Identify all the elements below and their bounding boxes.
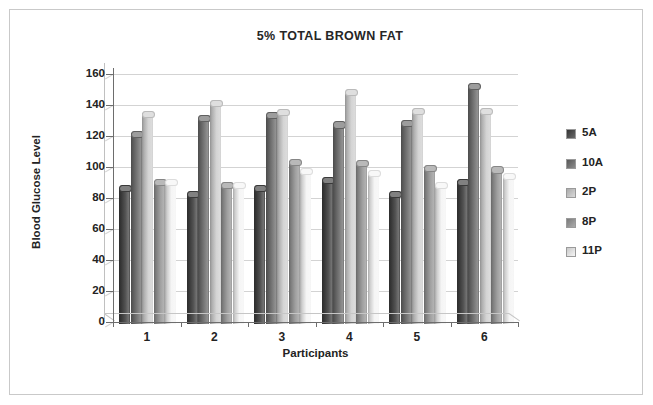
x-axis-tick [518, 322, 519, 327]
bar-body [412, 110, 423, 324]
y-axis-tick-label: 80 [45, 192, 105, 204]
bar-body [221, 185, 232, 325]
bar-cap [165, 179, 178, 186]
bar-cap [356, 160, 369, 167]
bar-2p-participant-5[interactable] [412, 110, 423, 324]
y-axis-tick-label: 160 [45, 68, 105, 80]
y-axis-tick-label: 40 [45, 254, 105, 266]
bar-2p-participant-2[interactable] [210, 102, 221, 324]
bar-body [254, 188, 265, 324]
bar-cap [424, 165, 437, 172]
bar-8p-participant-4[interactable] [356, 163, 367, 324]
bar-group [254, 74, 311, 326]
bar-5a-participant-4[interactable] [322, 180, 333, 324]
bar-body [233, 185, 244, 325]
bar-10a-participant-3[interactable] [266, 115, 277, 324]
bar-5a-participant-3[interactable] [254, 188, 265, 324]
bar-8p-participant-3[interactable] [289, 161, 300, 324]
y-axis-tick-label: 20 [45, 285, 105, 297]
legend-swatch [566, 218, 576, 228]
x-axis-tick-label: 6 [464, 330, 504, 344]
bar-body [142, 113, 153, 324]
x-axis-tick [451, 322, 452, 327]
bar-11p-participant-3[interactable] [300, 171, 311, 324]
bar-cap [142, 111, 155, 118]
bar-cap [503, 173, 516, 180]
x-axis-tick-label: 1 [127, 330, 167, 344]
bar-cap [233, 182, 246, 189]
bar-5a-participant-1[interactable] [119, 188, 130, 324]
x-axis-back-line [104, 313, 509, 314]
legend-label: 5A [582, 126, 597, 138]
bar-cap [289, 159, 302, 166]
x-axis-tick [248, 322, 249, 327]
bar-group [457, 74, 514, 326]
bar-10a-participant-5[interactable] [401, 123, 412, 325]
x-axis-tick [181, 322, 182, 327]
legend-label: 2P [582, 185, 596, 197]
y-axis-tick [106, 198, 113, 199]
y-axis-tick [106, 136, 113, 137]
x-axis-tick [383, 322, 384, 327]
bar-body [435, 185, 446, 325]
y-axis-tick-labels: 020406080100120140160 [35, 72, 105, 324]
legend-swatch [566, 159, 576, 169]
bar-8p-participant-6[interactable] [491, 169, 502, 324]
y-axis-tick [106, 260, 113, 261]
bar-2p-participant-1[interactable] [142, 113, 153, 324]
bar-body [187, 194, 198, 324]
bar-cap [345, 89, 358, 96]
y-axis-tick [106, 322, 113, 323]
bar-body [468, 85, 479, 324]
bar-cap [491, 166, 504, 173]
bar-cap [210, 100, 223, 107]
bar-10a-participant-6[interactable] [468, 85, 479, 324]
bar-body [266, 115, 277, 324]
x-axis-tick-label: 4 [329, 330, 369, 344]
bar-11p-participant-6[interactable] [503, 175, 514, 324]
bar-body [322, 180, 333, 324]
bar-body [333, 124, 344, 324]
y-axis-tick-label: 0 [45, 316, 105, 328]
bar-8p-participant-1[interactable] [154, 181, 165, 324]
y-axis-tick [106, 74, 113, 75]
bar-cap [480, 108, 493, 115]
x-axis-tick-label: 3 [262, 330, 302, 344]
y-axis-tick [106, 167, 113, 168]
bar-group [187, 74, 244, 326]
bar-11p-participant-2[interactable] [233, 185, 244, 325]
x-axis-tick-label: 5 [397, 330, 437, 344]
legend-swatch [566, 247, 576, 257]
bar-2p-participant-3[interactable] [277, 112, 288, 324]
bar-5a-participant-6[interactable] [457, 181, 468, 324]
bar-8p-participant-2[interactable] [221, 185, 232, 325]
bar-11p-participant-4[interactable] [368, 172, 379, 324]
bar-2p-participant-4[interactable] [345, 92, 356, 325]
bar-body [131, 133, 142, 324]
x-axis-title: Participants [113, 347, 518, 359]
plot-area: 020406080100120140160 123456 [113, 72, 518, 324]
bar-5a-participant-2[interactable] [187, 194, 198, 324]
bar-5a-participant-5[interactable] [389, 194, 400, 324]
bar-8p-participant-5[interactable] [424, 167, 435, 324]
y-axis-tick-label: 100 [45, 161, 105, 173]
bar-group [119, 74, 176, 326]
bar-10a-participant-1[interactable] [131, 133, 142, 324]
bar-10a-participant-2[interactable] [198, 118, 209, 324]
bar-body [289, 161, 300, 324]
x-axis-tick [113, 322, 114, 327]
bar-body [424, 167, 435, 324]
bar-cap [412, 108, 425, 115]
bar-2p-participant-6[interactable] [480, 110, 491, 324]
bar-11p-participant-5[interactable] [435, 185, 446, 325]
bar-group [322, 74, 379, 326]
bar-body [198, 118, 209, 324]
bar-body [356, 163, 367, 324]
bar-body [368, 172, 379, 324]
y-axis-tick-label: 120 [45, 130, 105, 142]
bar-body [210, 102, 221, 324]
chart-title: 5% TOTAL BROWN FAT [120, 29, 540, 43]
bar-11p-participant-1[interactable] [165, 181, 176, 324]
bar-10a-participant-4[interactable] [333, 124, 344, 324]
y-axis-tick [106, 291, 113, 292]
